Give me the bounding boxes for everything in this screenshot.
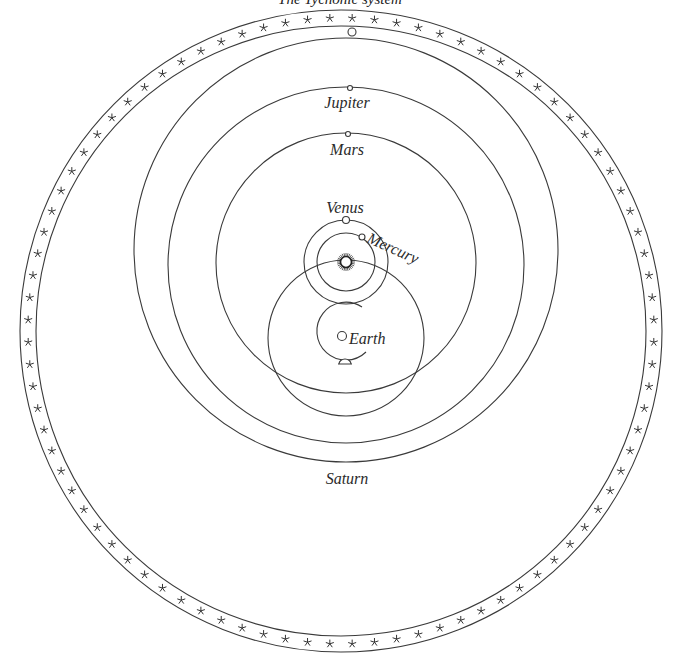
star-icon bbox=[124, 556, 132, 564]
star-icon bbox=[645, 382, 653, 390]
star-icon bbox=[29, 382, 37, 390]
mercury-planet-icon bbox=[359, 234, 365, 240]
venus-planet-icon bbox=[343, 217, 350, 224]
star-icon bbox=[326, 14, 334, 22]
star-icon bbox=[281, 19, 289, 27]
star-icon bbox=[393, 19, 401, 27]
label-saturn: Saturn bbox=[326, 470, 369, 487]
star-icon bbox=[594, 148, 602, 156]
star-icon bbox=[617, 187, 625, 195]
star-icon bbox=[34, 249, 42, 257]
mars-planet-icon bbox=[346, 132, 351, 137]
star-icon bbox=[533, 571, 541, 579]
tychonic-system-diagram: The Tychonic system Jupiter Mars Venus M… bbox=[0, 0, 679, 660]
jupiter-planet-icon bbox=[348, 86, 353, 91]
star-icon bbox=[68, 487, 76, 495]
star-icon bbox=[645, 271, 653, 279]
star-icon bbox=[158, 70, 166, 78]
star-icon bbox=[124, 98, 132, 106]
star-icon bbox=[606, 167, 614, 175]
star-icon bbox=[634, 228, 642, 236]
label-mercury: Mercury bbox=[363, 229, 422, 268]
star-icon bbox=[93, 130, 101, 138]
star-icon bbox=[581, 130, 589, 138]
star-icon bbox=[304, 16, 312, 24]
label-earth: Earth bbox=[348, 330, 385, 347]
star-band-inner bbox=[36, 26, 646, 636]
star-icon bbox=[457, 616, 465, 624]
star-icon bbox=[217, 616, 225, 624]
star-icon bbox=[24, 338, 32, 346]
star-icon bbox=[414, 630, 422, 638]
star-icon bbox=[281, 635, 289, 643]
star-icon bbox=[477, 607, 485, 615]
star-icon bbox=[648, 360, 656, 368]
star-icon bbox=[640, 404, 648, 412]
star-icon bbox=[516, 70, 524, 78]
label-mars: Mars bbox=[329, 141, 364, 158]
star-icon bbox=[634, 426, 642, 434]
star-icon bbox=[457, 38, 465, 46]
star-icon bbox=[260, 630, 268, 638]
caption: The Tychonic system bbox=[278, 0, 402, 7]
star-icon bbox=[626, 447, 634, 455]
star-icon bbox=[617, 467, 625, 475]
star-icon bbox=[238, 624, 246, 632]
star-icon bbox=[57, 467, 65, 475]
star-icon bbox=[550, 98, 558, 106]
star-icon bbox=[650, 338, 658, 346]
star-icon bbox=[40, 228, 48, 236]
star-icon bbox=[326, 640, 334, 648]
star-icon bbox=[217, 38, 225, 46]
star-icon bbox=[370, 16, 378, 24]
star-icon bbox=[108, 114, 116, 122]
star-icon bbox=[57, 187, 65, 195]
label-jupiter: Jupiter bbox=[324, 94, 370, 112]
star-icon bbox=[594, 505, 602, 513]
star-icon bbox=[436, 624, 444, 632]
star-icon bbox=[80, 505, 88, 513]
star-icon bbox=[304, 638, 312, 646]
star-icon bbox=[348, 14, 356, 22]
star-icon bbox=[40, 426, 48, 434]
star-icon bbox=[626, 207, 634, 215]
star-icon bbox=[238, 30, 246, 38]
star-icon bbox=[640, 249, 648, 257]
star-icon bbox=[348, 640, 356, 648]
star-icon bbox=[566, 114, 574, 122]
star-icon bbox=[26, 293, 34, 301]
star-icon bbox=[393, 635, 401, 643]
star-icon bbox=[68, 167, 76, 175]
moon-icon bbox=[339, 359, 351, 364]
star-icon bbox=[606, 487, 614, 495]
star-icon bbox=[26, 360, 34, 368]
star-icon bbox=[48, 207, 56, 215]
star-icon bbox=[260, 24, 268, 32]
star-icon bbox=[177, 58, 185, 66]
star-icon bbox=[581, 523, 589, 531]
sun-icon bbox=[337, 253, 355, 271]
star-icon bbox=[414, 24, 422, 32]
earth-planet-icon bbox=[338, 332, 347, 341]
star-icon bbox=[80, 148, 88, 156]
star-icon bbox=[141, 571, 149, 579]
star-icon bbox=[197, 607, 205, 615]
label-venus: Venus bbox=[326, 199, 363, 216]
star-icon bbox=[158, 584, 166, 592]
star-icon bbox=[108, 540, 116, 548]
star-icon bbox=[497, 58, 505, 66]
star-icon bbox=[648, 293, 656, 301]
star-icon bbox=[550, 556, 558, 564]
star-icon bbox=[436, 30, 444, 38]
star-icon bbox=[497, 596, 505, 604]
star-icon bbox=[197, 47, 205, 55]
saturn-planet-icon bbox=[348, 28, 356, 36]
star-icon bbox=[650, 316, 658, 324]
star-icon bbox=[566, 540, 574, 548]
star-icon bbox=[93, 523, 101, 531]
star-icon bbox=[370, 638, 378, 646]
star-icon bbox=[48, 447, 56, 455]
star-icon bbox=[477, 47, 485, 55]
star-icon bbox=[533, 83, 541, 91]
star-icon bbox=[29, 271, 37, 279]
